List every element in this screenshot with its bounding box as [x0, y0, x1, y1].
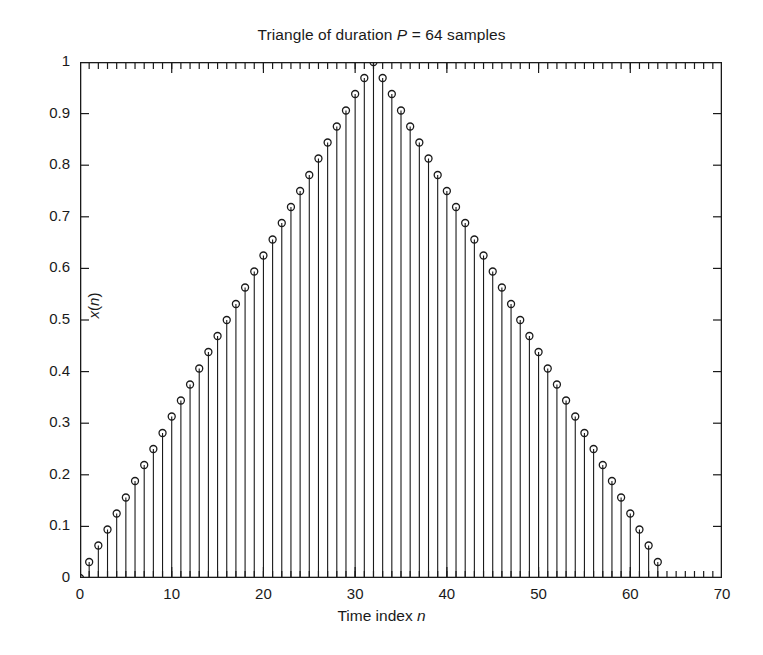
y-axis-tick-label: 0.3: [2, 413, 70, 430]
y-axis-label-paren-open: (: [85, 306, 102, 311]
chart-title-symbol: P: [397, 26, 407, 43]
x-axis-label-italic: n: [417, 607, 426, 624]
y-axis-tick-label: 0.5: [2, 310, 70, 327]
y-axis-tick-label: 0.4: [2, 362, 70, 379]
x-axis-tick-label: 60: [600, 585, 660, 602]
x-axis-tick-label: 20: [233, 585, 293, 602]
x-axis-tick-label: 70: [692, 585, 752, 602]
x-axis-label: Time index n: [0, 607, 763, 625]
x-axis-tick-label: 10: [142, 585, 202, 602]
chart-title-suffix: = 64 samples: [407, 26, 505, 43]
y-axis-label: x(n): [85, 246, 102, 366]
y-axis-tick-label: 0.6: [2, 258, 70, 275]
stem-markers-group: [80, 62, 661, 578]
y-axis-label-italic: n: [85, 298, 102, 306]
y-axis-tick-label: 0.7: [2, 207, 70, 224]
y-axis-tick-label: 0.2: [2, 465, 70, 482]
y-axis-label-paren-close: ): [85, 293, 102, 298]
x-axis-tick-label: 50: [509, 585, 569, 602]
y-axis-tick-label: 0: [2, 568, 70, 585]
figure-canvas: Triangle of duration P = 64 samples x(n)…: [0, 0, 763, 655]
y-axis-tick-label: 0.1: [2, 516, 70, 533]
y-axis-tick-label: 0.9: [2, 104, 70, 121]
x-axis-tick-label: 30: [325, 585, 385, 602]
chart-title: Triangle of duration P = 64 samples: [0, 26, 763, 44]
y-axis-tick-label: 1: [2, 52, 70, 69]
chart-title-prefix: Triangle of duration: [257, 26, 396, 43]
y-axis-label-prefix: x: [85, 311, 102, 319]
x-axis-label-prefix: Time index: [337, 607, 417, 624]
y-axis-tick-label: 0.8: [2, 155, 70, 172]
x-axis-tick-label: 0: [50, 585, 110, 602]
x-axis-tick-label: 40: [417, 585, 477, 602]
stem-lines-group: [80, 62, 658, 578]
plot-area: x(n): [80, 62, 722, 578]
stem-plot-svg: [80, 62, 722, 578]
